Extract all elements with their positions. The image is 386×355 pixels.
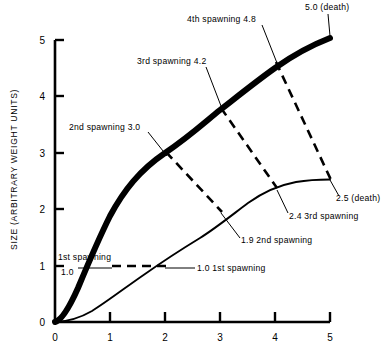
growth-curve-chart: 5 4 3 2 1 0 0 1 2 3 4 5 SIZE (ARBITRARY … [0, 0, 386, 355]
connector-4th-spawning [276, 62, 331, 180]
label-1st-spawning: 1st spawning [58, 252, 111, 262]
y-tick-label-2: 2 [39, 204, 45, 215]
axes-group [55, 40, 330, 322]
leader-3rd-spawning [206, 67, 221, 106]
leader-5-death [328, 14, 330, 36]
y-tick-label-4: 4 [39, 91, 45, 102]
label-1-0-left: 1.0 [61, 267, 74, 277]
x-tick-label-4: 4 [272, 332, 278, 343]
x-tick-label-0: 0 [52, 332, 58, 343]
leader-2-4-3rd-spawning [277, 190, 288, 213]
x-tick-labels: 0 1 2 3 4 5 [52, 332, 333, 343]
x-tick-label-2: 2 [162, 332, 168, 343]
label-1-0-1st-spawning: 1.0 1st spawning [197, 263, 266, 273]
x-tick-label-1: 1 [107, 332, 113, 343]
x-tick-label-3: 3 [217, 332, 223, 343]
label-1-9-2nd-spawning: 1.9 2nd spawning [241, 235, 312, 245]
y-tick-label-1: 1 [39, 261, 45, 272]
label-5-death: 5.0 (death) [305, 2, 349, 12]
y-axis-title: SIZE (ARBITRARY WEIGHT UNITS) [9, 89, 19, 250]
y-tick-label-5: 5 [39, 35, 45, 46]
label-2-5-death: 2.5 (death) [336, 193, 380, 203]
chart-svg: 5 4 3 2 1 0 0 1 2 3 4 5 SIZE (ARBITRARY … [0, 0, 386, 355]
leader-4th-spawning [262, 25, 277, 63]
y-tick-labels: 5 4 3 2 1 0 [39, 35, 45, 328]
label-2nd-spawning: 2nd spawning 3.0 [69, 122, 140, 132]
connector-3rd-spawning [221, 108, 277, 188]
y-tick-label-0: 0 [39, 317, 45, 328]
annotation-labels: 4th spawning 4.8 5.0 (death) 3rd spawnin… [58, 2, 380, 277]
y-tick-label-3: 3 [39, 148, 45, 159]
label-3rd-spawning: 3rd spawning 4.2 [137, 56, 206, 66]
x-tick-label-5: 5 [327, 332, 333, 343]
connector-2nd-spawning [166, 152, 222, 212]
label-4th-spawning: 4th spawning 4.8 [187, 14, 256, 24]
label-2-4-3rd-spawning: 2.4 3rd spawning [289, 211, 358, 221]
leader-2nd-spawning [148, 132, 167, 156]
